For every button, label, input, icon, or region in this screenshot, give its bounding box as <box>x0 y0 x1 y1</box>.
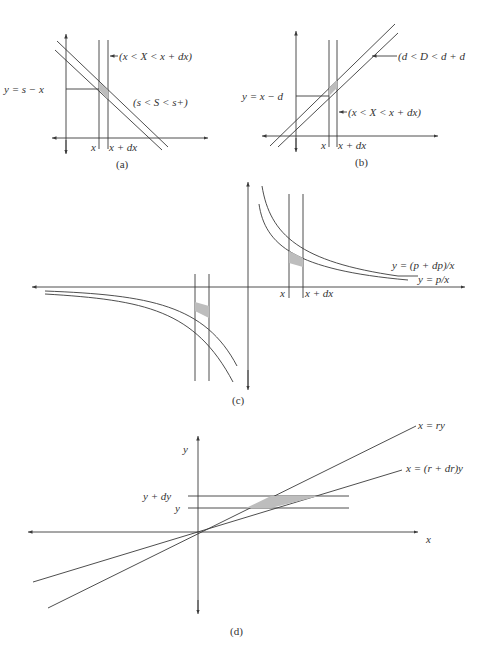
d-line-rdr <box>33 470 402 582</box>
c-shaded-region-left <box>195 302 209 318</box>
c-tick-xdx: x + dx <box>304 287 333 299</box>
b-shaded-region <box>329 80 337 96</box>
c-outer-label: y = (p + dp)/x <box>391 259 455 272</box>
figure-canvas: (x < X < x + dx) (s < S < s+) y = s − x … <box>0 0 501 646</box>
b-tick-x: x <box>320 139 326 151</box>
b-line-label: y = x − d <box>241 90 284 102</box>
panel-c: y = (p + dp)/x y = p/x x x + dx (c) <box>32 182 465 407</box>
d-ydy-label: y + dy <box>142 490 171 502</box>
a-shaded-region <box>99 82 108 99</box>
panel-a: (x < X < x + dx) (s < S < s+) y = s − x … <box>3 34 208 171</box>
d-line2-label: x = (r + dr)y <box>405 462 463 475</box>
c-curve-inner-right <box>259 204 408 280</box>
d-axis-y-label: y <box>182 443 188 455</box>
d-y-label: y <box>174 502 180 514</box>
a-band-label: (s < S < s+) <box>133 96 188 109</box>
a-caption: (a) <box>116 158 129 171</box>
a-tick-x: x <box>90 141 96 153</box>
a-strip-label: (x < X < x + dx) <box>119 50 192 63</box>
b-strip-label: (x < X < x + dx) <box>348 106 421 119</box>
b-tick-xdx: x + dx <box>337 139 366 151</box>
panel-d: y + dy y y x x = ry x = (r + dr)y (d) <box>28 419 463 638</box>
panel-b: (d < D < d + d (x < X < x + dx) y = x − … <box>241 24 465 169</box>
d-axis-x-label: x <box>425 533 431 545</box>
c-shaded-region-right <box>289 251 303 267</box>
c-curve-outer-right <box>262 186 398 276</box>
a-line-label: y = s − x <box>3 83 44 95</box>
c-tick-x: x <box>279 287 285 299</box>
d-line1-label: x = ry <box>417 419 445 431</box>
a-tick-xdx: x + dx <box>108 141 137 153</box>
c-inner-label: y = p/x <box>417 273 449 285</box>
b-band-label: (d < D < d + d <box>398 50 465 63</box>
d-line-ry <box>48 426 416 608</box>
c-caption: (c) <box>232 394 245 407</box>
d-caption: (d) <box>230 625 243 638</box>
b-caption: (b) <box>355 156 368 169</box>
c-curve-outer-left <box>45 291 237 366</box>
